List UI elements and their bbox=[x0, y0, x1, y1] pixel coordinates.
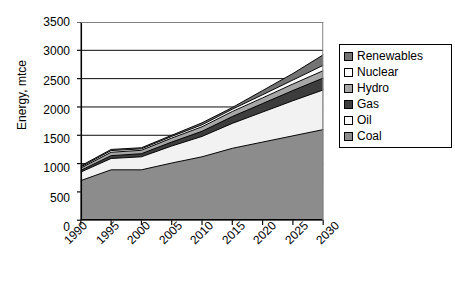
legend-item: Renewables bbox=[344, 48, 448, 64]
legend-label: Hydro bbox=[357, 82, 389, 94]
legend-label: Oil bbox=[357, 114, 372, 126]
legend-swatch-icon bbox=[344, 132, 353, 141]
legend-swatch-icon bbox=[344, 84, 353, 93]
legend-label: Coal bbox=[357, 130, 382, 142]
legend-item: Hydro bbox=[344, 80, 448, 96]
legend-item: Nuclear bbox=[344, 64, 448, 80]
legend-label: Gas bbox=[357, 98, 379, 110]
legend-label: Renewables bbox=[357, 50, 423, 62]
legend-swatch-icon bbox=[344, 100, 353, 109]
legend-swatch-icon bbox=[344, 52, 353, 61]
x-axis-tick-label: 2010 bbox=[188, 219, 215, 246]
x-axis-tick-label: 2015 bbox=[220, 219, 247, 246]
legend-item: Gas bbox=[344, 96, 448, 112]
legend-label: Nuclear bbox=[357, 66, 398, 78]
x-axis-tick-label: 2030 bbox=[314, 219, 341, 246]
legend-swatch-icon bbox=[344, 116, 353, 125]
x-axis-tick-label: 1995 bbox=[94, 219, 121, 246]
chart-root: Energy, mtce 050010001500200025003000350… bbox=[0, 0, 455, 283]
x-axis-tick-label: 2025 bbox=[283, 219, 310, 246]
chart-legend: RenewablesNuclearHydroGasOilCoal bbox=[339, 44, 452, 148]
legend-item: Coal bbox=[344, 128, 448, 144]
x-axis-tick-label: 2020 bbox=[251, 219, 278, 246]
x-axis-tick-label: 1990 bbox=[62, 219, 89, 246]
legend-swatch-icon bbox=[344, 68, 353, 77]
legend-item: Oil bbox=[344, 112, 448, 128]
x-axis-tick-label: 2005 bbox=[157, 219, 184, 246]
x-axis-tick-label: 2000 bbox=[125, 219, 152, 246]
